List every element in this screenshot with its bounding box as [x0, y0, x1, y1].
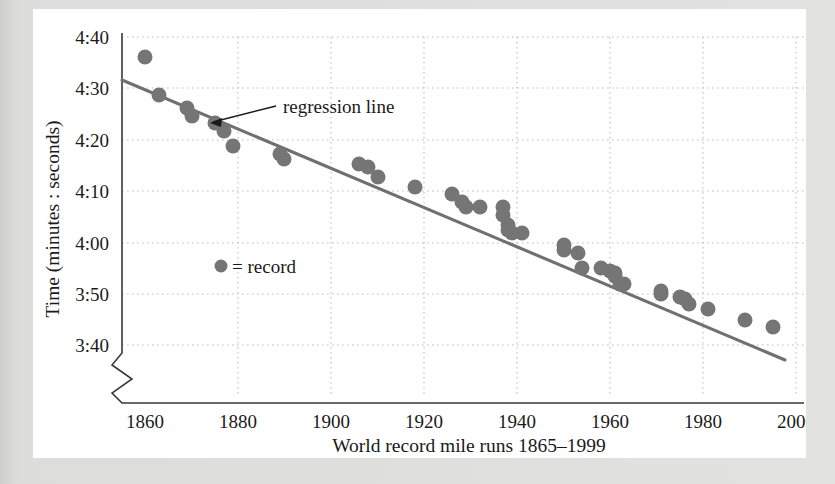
- y-tick-label: 3:50: [75, 284, 109, 305]
- x-tick-label: 1940: [498, 411, 536, 432]
- data-point: [459, 200, 474, 215]
- data-point: [557, 243, 572, 258]
- data-point: [185, 109, 200, 124]
- data-point: [138, 50, 153, 65]
- x-axis-title: World record mile runs 1865–1999: [332, 435, 606, 456]
- y-axis-title: Time (minutes : seconds): [42, 121, 64, 318]
- figure-page: 4:40 4:30 4:20 4:10 4:00 3:50 3:40 1860 …: [33, 9, 806, 458]
- y-tick-label: 4:40: [75, 27, 109, 48]
- data-point: [682, 297, 697, 312]
- chart-background: [33, 9, 806, 458]
- x-tick-label: 2000: [777, 411, 806, 432]
- x-tick-label: 1960: [591, 411, 629, 432]
- x-tick-label: 1880: [219, 411, 257, 432]
- data-point: [575, 261, 590, 276]
- y-tick-label: 3:40: [75, 335, 109, 356]
- x-tick-label: 1860: [126, 411, 164, 432]
- y-tick-label: 4:20: [75, 130, 109, 151]
- y-tick-label: 4:10: [75, 181, 109, 202]
- data-point: [738, 313, 753, 328]
- data-point: [371, 170, 386, 185]
- scatter-chart: 4:40 4:30 4:20 4:10 4:00 3:50 3:40 1860 …: [33, 9, 806, 458]
- data-point: [408, 180, 423, 195]
- legend-label: = record: [232, 256, 296, 277]
- data-point: [226, 139, 241, 154]
- y-tick-label: 4:30: [75, 78, 109, 99]
- x-tick-label: 1920: [405, 411, 443, 432]
- annotation-label: regression line: [283, 96, 394, 117]
- data-point: [701, 302, 716, 317]
- figure-root: 4:40 4:30 4:20 4:10 4:00 3:50 3:40 1860 …: [0, 0, 835, 484]
- data-point: [617, 277, 632, 292]
- legend-marker-icon: [215, 260, 228, 273]
- data-point: [277, 152, 292, 167]
- data-point: [515, 226, 530, 241]
- data-point: [571, 246, 586, 261]
- y-tick-label: 4:00: [75, 233, 109, 254]
- data-point: [473, 200, 488, 215]
- data-point: [654, 287, 669, 302]
- x-tick-label: 1900: [312, 411, 350, 432]
- data-point: [152, 88, 167, 103]
- x-tick-label: 1980: [684, 411, 722, 432]
- data-point: [766, 320, 781, 335]
